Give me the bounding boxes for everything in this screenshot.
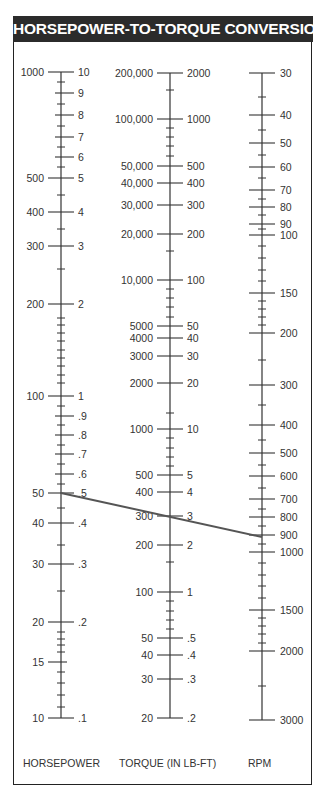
horsepower-left-label: 400 xyxy=(26,206,44,218)
rpm-label: 400 xyxy=(280,419,298,431)
horsepower-right-label: .8 xyxy=(78,429,87,441)
torque-left-label: 400 xyxy=(135,486,153,498)
rpm-label: 80 xyxy=(280,201,292,213)
torque-right-label: 1 xyxy=(187,586,193,598)
horsepower-left-label: 40 xyxy=(32,517,44,529)
torque-right-label: 300 xyxy=(187,199,205,211)
horsepower-right-label: .6 xyxy=(78,468,87,480)
torque-left-label: 50,000 xyxy=(121,160,153,172)
horsepower-left-label: 30 xyxy=(32,558,44,570)
horsepower-left-label: 20 xyxy=(32,616,44,628)
rpm-axis-title: RPM xyxy=(248,757,271,769)
torque-left-label: 1000 xyxy=(130,423,154,435)
rpm-label: 600 xyxy=(280,470,298,482)
torque-left-label: 10,000 xyxy=(121,274,153,286)
rpm-label: 150 xyxy=(280,287,298,299)
torque-left-label: 40 xyxy=(141,649,153,661)
horsepower-right-label: 3 xyxy=(78,240,84,252)
horsepower-right-label: .3 xyxy=(78,558,87,570)
horsepower-right-label: .2 xyxy=(78,616,87,628)
horsepower-left-label: 50 xyxy=(32,487,44,499)
torque-left-label: 20,000 xyxy=(121,228,153,240)
torque-right-label: 50 xyxy=(187,320,199,332)
torque-right-label: .4 xyxy=(187,649,196,661)
rpm-label: 2000 xyxy=(280,645,304,657)
torque-right-label: 100 xyxy=(187,274,205,286)
rpm-label: 700 xyxy=(280,493,298,505)
rpm-label: 500 xyxy=(280,447,298,459)
rpm-label: 70 xyxy=(280,184,292,196)
torque-left-label: 4000 xyxy=(130,332,154,344)
torque-right-label: 5 xyxy=(187,469,193,481)
horsepower-right-label: .1 xyxy=(78,712,87,724)
torque-left-label: 30 xyxy=(141,673,153,685)
torque-left-label: 500 xyxy=(135,469,153,481)
torque-left-label: 100,000 xyxy=(115,113,153,125)
torque-left-label: 3000 xyxy=(130,350,154,362)
rpm-label: 800 xyxy=(280,511,298,523)
horsepower-right-label: 7 xyxy=(78,131,84,143)
torque-right-label: 2000 xyxy=(187,67,211,79)
torque-left-label: 5000 xyxy=(130,320,154,332)
horsepower-left-label: 500 xyxy=(26,172,44,184)
torque-right-label: 200 xyxy=(187,228,205,240)
rpm-label: 1500 xyxy=(280,604,304,616)
rpm-label: 200 xyxy=(280,327,298,339)
torque-right-label: 400 xyxy=(187,177,205,189)
horsepower-right-label: 5 xyxy=(78,172,84,184)
torque-right-label: 10 xyxy=(187,423,199,435)
torque-left-label: 20 xyxy=(141,712,153,724)
rpm-label: 1000 xyxy=(280,546,304,558)
horsepower-right-label: .7 xyxy=(78,448,87,460)
rpm-label: 30 xyxy=(280,67,292,79)
torque-left-label: 30,000 xyxy=(121,199,153,211)
horsepower-right-label: 2 xyxy=(78,298,84,310)
torque-right-label: 20 xyxy=(187,377,199,389)
torque-left-label: 100 xyxy=(135,586,153,598)
horsepower-left-label: 100 xyxy=(26,390,44,402)
horsepower-left-label: 1000 xyxy=(21,66,45,78)
rpm-label: 100 xyxy=(280,229,298,241)
torque-left-label: 40,000 xyxy=(121,177,153,189)
horsepower-right-label: .9 xyxy=(78,410,87,422)
torque-right-label: 500 xyxy=(187,160,205,172)
rpm-label: 3000 xyxy=(280,714,304,726)
horsepower-axis-title: HORSEPOWER xyxy=(23,757,100,769)
rpm-label: 300 xyxy=(280,379,298,391)
torque-right-label: 2 xyxy=(187,539,193,551)
example-conversion-line xyxy=(61,493,262,537)
torque-right-label: 4 xyxy=(187,486,193,498)
torque-right-label: 40 xyxy=(187,332,199,344)
torque-right-label: 30 xyxy=(187,350,199,362)
torque-right-label: .3 xyxy=(187,673,196,685)
horsepower-right-label: 8 xyxy=(78,109,84,121)
rpm-label: 50 xyxy=(280,137,292,149)
horsepower-left-label: 15 xyxy=(32,656,44,668)
rpm-label: 40 xyxy=(280,109,292,121)
rpm-label: 900 xyxy=(280,529,298,541)
torque-left-label: 2000 xyxy=(130,377,154,389)
horsepower-left-label: 10 xyxy=(32,712,44,724)
horsepower-right-label: 10 xyxy=(78,66,90,78)
torque-left-label: 200 xyxy=(135,539,153,551)
horsepower-right-label: 9 xyxy=(78,87,84,99)
torque-axis-title: TORQUE (IN LB-FT) xyxy=(119,757,216,769)
torque-right-label: .2 xyxy=(187,712,196,724)
horsepower-left-label: 300 xyxy=(26,240,44,252)
torque-left-label: 50 xyxy=(141,632,153,644)
torque-right-label: .5 xyxy=(187,632,196,644)
torque-right-label: 1000 xyxy=(187,113,211,125)
horsepower-right-label: 4 xyxy=(78,206,84,218)
nomogram: 100010987650054004300320021001.9.8.7.650… xyxy=(0,0,331,796)
rpm-label: 60 xyxy=(280,161,292,173)
horsepower-left-label: 200 xyxy=(26,298,44,310)
torque-left-label: 200,000 xyxy=(115,67,153,79)
horsepower-right-label: .4 xyxy=(78,517,87,529)
horsepower-right-label: 1 xyxy=(78,390,84,402)
horsepower-right-label: 6 xyxy=(78,151,84,163)
